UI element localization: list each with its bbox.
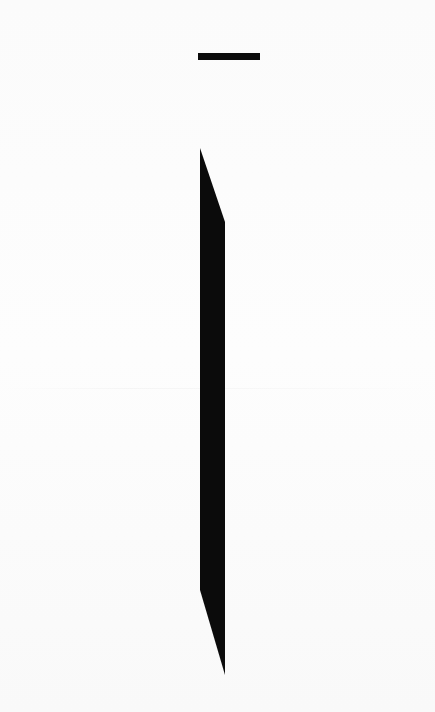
canvas [0, 0, 435, 712]
vertical-blade-shape [0, 0, 435, 712]
